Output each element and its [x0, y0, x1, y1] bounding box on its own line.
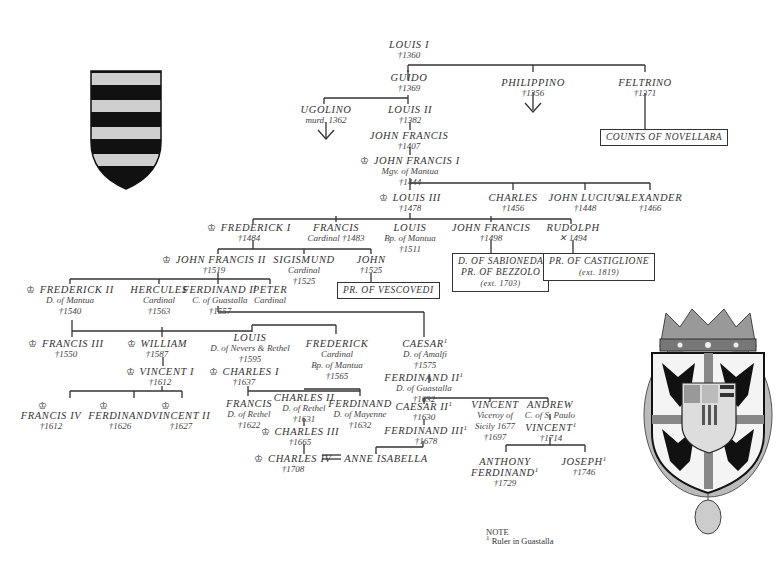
person-sigismund: SIGISMUND Cardinal †1525 — [273, 254, 334, 287]
crown-icon: ♔ — [379, 192, 389, 203]
footnote: NOTE 1 Ruler in Guastalla — [486, 528, 553, 546]
person-vincent-i: ♔VINCENT I †1612 — [126, 366, 194, 388]
person-charles-ii: CHARLES II D. of Rethel †1631 — [274, 392, 335, 425]
person-hercules: HERCULES Cardinal †1563 — [130, 284, 187, 317]
lineage-box-castiglione: PR. OF CASTIGLIONE (ext. 1819) — [543, 253, 655, 281]
crown-icon: ♔ — [26, 284, 36, 295]
gonzaga-striped-shield-icon — [90, 70, 162, 190]
person-john: JOHN †1525 — [356, 254, 385, 276]
person-frederick-i: ♔FREDERICK I †1484 — [207, 222, 291, 244]
person-rudolph: RUDOLPH ✕ 1494 — [546, 222, 599, 244]
person-john-francis-sabioneda: JOHN FRANCIS †1498 — [452, 222, 531, 244]
person-charles-iii: ♔CHARLES III †1665 — [261, 426, 339, 448]
crown-icon: ♔ — [127, 338, 137, 349]
person-ferdinand-i: FERDINAND I1 C. of Guastalla †1557 — [182, 284, 257, 317]
person-charles: CHARLES †1456 — [488, 192, 537, 214]
person-andrew: ANDREW C. of S. Paulo — [525, 399, 575, 421]
crown-icon: ♔ — [126, 366, 136, 377]
ducal-coat-of-arms-icon — [640, 305, 778, 535]
person-charles-iv: ♔CHARLES IV †1708 — [254, 453, 331, 475]
lineage-box-sabioneda: D. OF SABIONEDA PR. OF BEZZOLO (ext. 170… — [452, 253, 549, 292]
person-william: ♔WILLIAM †1587 — [127, 338, 187, 360]
person-louis-nevers: LOUIS D. of Nevers & Rethel †1595 — [210, 332, 290, 365]
lineage-box-novellara: COUNTS OF NOVELLARA — [600, 129, 728, 146]
person-caesar-ii: CAESAR II1 †1630 — [395, 401, 452, 423]
person-frederick-cardinal: FREDERICK Cardinal Bp. of Mantua †1565 — [306, 338, 369, 382]
crown-icon: ♔ — [254, 453, 264, 464]
person-ugolino: UGOLINO murd. 1362 — [301, 104, 352, 126]
person-francis-cardinal: FRANCIS Cardinal †1483 — [308, 222, 365, 244]
crown-icon: ♔ — [209, 366, 219, 377]
person-francis-iii: ♔FRANCIS III †1550 — [28, 338, 103, 360]
person-anne-isabella: ANNE ISABELLA — [344, 453, 427, 464]
person-john-francis: JOHN FRANCIS †1407 — [370, 130, 449, 152]
crown-icon: ♔ — [162, 254, 172, 265]
person-philippino: PHILIPPINO †1356 — [501, 77, 565, 99]
person-ferdinand-iii: FERDINAND III1 †1678 — [384, 425, 467, 447]
person-john-francis-ii: ♔JOHN FRANCIS II †1519 — [162, 254, 266, 276]
person-louis-i: LOUIS I †1360 — [389, 39, 429, 61]
person-louis-iii: ♔LOUIS III †1478 — [379, 192, 441, 214]
crown-icon: ♔ — [360, 155, 370, 166]
person-vincent-guastalla: VINCENT1 †1714 — [525, 422, 576, 444]
person-john-francis-i: ♔JOHN FRANCIS I Mgv. of Mantua †1444 — [360, 155, 460, 188]
person-vincent-viceroy: VINCENT Viceroy of Sicily 1677 †1697 — [471, 399, 518, 443]
person-feltrino: FELTRINO †1371 — [618, 77, 672, 99]
person-francis-iv: FRANCIS IV †1612 — [21, 410, 82, 432]
lineage-box-vescovedi: PR. OF VESCOVEDI — [337, 282, 440, 299]
person-louis-ii: LOUIS II †1382 — [388, 104, 432, 126]
person-frederick-ii: ♔FREDERICK II D. of Mantua †1540 — [26, 284, 114, 317]
person-ferdinand-duke: FERDINAND †1626 — [88, 410, 152, 432]
person-vincent-ii: VINCENT II †1627 — [152, 410, 211, 432]
person-alexander: ALEXANDER †1466 — [618, 192, 682, 214]
person-caesar-i: CAESAR1 D. of Amalfi †1575 — [402, 338, 448, 371]
person-anthony-ferdinand: ANTHONY FERDINAND1 †1729 — [471, 456, 539, 489]
person-peter: PETER Cardinal — [253, 284, 288, 306]
person-guido: GUIDO †1369 — [391, 72, 428, 94]
crown-icon: ♔ — [261, 426, 271, 437]
person-john-lucius: JOHN LUCIUS †1448 — [549, 192, 622, 214]
crown-icon: ♔ — [207, 222, 217, 233]
person-charles-i: ♔CHARLES I †1637 — [209, 366, 279, 388]
crown-icon: ♔ — [28, 338, 38, 349]
person-louis-bishop: LOUIS Bp. of Mantua †1511 — [384, 222, 436, 255]
person-joseph: JOSEPH1 †1746 — [561, 456, 607, 478]
